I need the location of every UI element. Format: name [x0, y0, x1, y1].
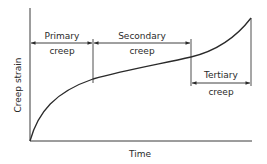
primary-label-line1: Primary [45, 31, 80, 41]
creep-curve-diagram: Primary creep Secondary creep Tertiary c… [0, 0, 267, 164]
secondary-label-line2: creep [129, 46, 155, 56]
tertiary-label-line2: creep [208, 87, 234, 97]
primary-label-line2: creep [49, 46, 75, 56]
y-axis-label: Creep strain [13, 57, 23, 112]
x-axis-label: Time [128, 149, 151, 159]
secondary-label-line1: Secondary [118, 31, 166, 41]
tertiary-label-line1: Tertiary [203, 70, 238, 80]
